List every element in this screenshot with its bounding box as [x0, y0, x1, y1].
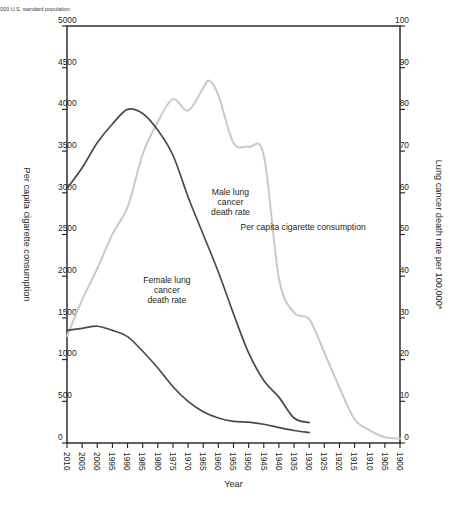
y2-axis-tick-label: 5000: [58, 15, 77, 25]
y-axis-tick-label: 100: [395, 15, 409, 25]
y-axis-tick-label: 80: [400, 98, 410, 108]
y2-axis-tick-label: 2000: [58, 265, 77, 275]
annotation-line: death rate: [211, 208, 250, 218]
x-axis-tick-label: 2010: [62, 452, 72, 471]
x-axis-tick-label: 1960: [213, 452, 223, 471]
y2-axis-title: Per capita cigarette consumption: [22, 168, 32, 302]
y2-axis-tick-label: 4000: [58, 98, 77, 108]
y2-axis-tick-label: 500: [58, 390, 72, 400]
footnote-text: *Age-adjusted to 2000 U.S. standard popu…: [0, 6, 70, 12]
x-axis-tick-label: 1980: [153, 452, 163, 471]
y2-axis-tick-label: 3500: [58, 140, 77, 150]
x-axis-tick-label: 1930: [304, 452, 314, 471]
x-axis-tick-label: 1940: [274, 452, 284, 471]
x-axis-tick-label: 1970: [183, 452, 193, 471]
y-axis-tick-label: 50: [400, 223, 410, 233]
annotation-per-capita-cigarette-consumption: Per capita cigarette consumption: [241, 222, 366, 232]
y2-axis-tick-label: 1000: [58, 348, 77, 358]
x-axis-tick-label: 1905: [380, 452, 390, 471]
annotation-line: Per capita cigarette consumption: [241, 222, 366, 232]
annotation-line: Female lung: [143, 275, 191, 285]
series-cigarette-consumption: [67, 80, 400, 438]
x-axis-tick-label: 2005: [77, 452, 87, 471]
x-axis-tick-label: 1910: [365, 452, 375, 471]
x-axis-title: Year: [224, 479, 243, 489]
y2-axis-tick-label: 4500: [58, 57, 77, 67]
y-axis-title: Lung cancer death rate per 100,000*: [434, 160, 444, 310]
y-axis-tick-label: 30: [400, 307, 410, 317]
x-axis-tick-label: 1975: [168, 452, 178, 471]
x-axis-tick-label: 1985: [137, 452, 147, 471]
x-axis-tick-label: 1925: [319, 452, 329, 471]
y-axis-tick-label: 40: [400, 265, 410, 275]
x-axis-tick-label: 1990: [122, 452, 132, 471]
x-axis-tick-label: 1920: [334, 452, 344, 471]
x-axis-tick-label: 1965: [198, 452, 208, 471]
annotation-line: cancer: [218, 197, 244, 207]
annotation-line: Male lung: [212, 187, 249, 197]
chart-figure: 1900190519101915192019251930193519401945…: [0, 0, 462, 511]
y-axis-tick-label: 20: [400, 348, 410, 358]
y2-axis-tick-label: 1500: [58, 307, 77, 317]
x-axis-tick-label: 1945: [259, 452, 269, 471]
y-axis-tick-label: 10: [400, 390, 410, 400]
x-axis-tick-label: 1900: [395, 452, 405, 471]
x-axis-tick-label: 1935: [289, 452, 299, 471]
x-axis-tick-label: 1915: [349, 452, 359, 471]
y2-axis-tick-label: 2500: [58, 223, 77, 233]
y2-axis-tick-label: 0: [58, 432, 63, 442]
annotation-line: death rate: [148, 295, 187, 305]
series-female-lung-cancer: [67, 326, 309, 432]
lung-cancer-cigarette-chart: 1900190519101915192019251930193519401945…: [0, 0, 462, 511]
annotation-male-lung-cancer-death-rate: Male lungcancerdeath rate: [211, 187, 250, 217]
x-axis-tick-label: 1955: [228, 452, 238, 471]
y-axis-tick-label: 0: [404, 432, 409, 442]
x-axis-tick-label: 1995: [107, 452, 117, 471]
plot-frame: [67, 26, 400, 443]
y-axis-tick-label: 90: [400, 57, 410, 67]
annotation-line: cancer: [154, 285, 180, 295]
series-male-lung-cancer: [67, 109, 309, 423]
y-axis-tick-label: 70: [400, 140, 410, 150]
x-axis-tick-label: 2000: [92, 452, 102, 471]
annotation-female-lung-cancer-death-rate: Female lungcancerdeath rate: [143, 275, 191, 305]
y-axis-tick-label: 60: [400, 182, 410, 192]
x-axis-tick-label: 1950: [243, 452, 253, 471]
